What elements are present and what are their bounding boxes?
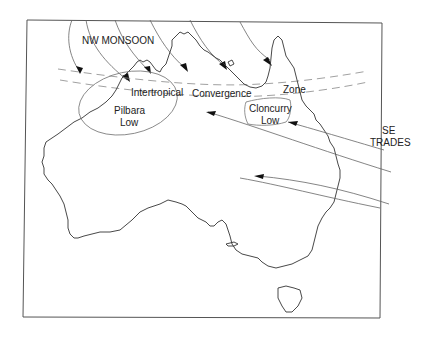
australia-coastline xyxy=(42,32,340,268)
se-trades-arrowheads xyxy=(206,111,298,179)
label-convergence: Convergence xyxy=(192,88,252,99)
label-se: SE xyxy=(382,125,396,136)
label-trades: TRADES xyxy=(370,137,411,148)
nw-monsoon-flow-lines xyxy=(69,20,270,80)
label-cloncurry: Cloncurry xyxy=(249,103,292,114)
tasmania xyxy=(278,286,302,312)
label-nw-monsoon: NW MONSOON xyxy=(82,35,154,46)
label-zone: Zone xyxy=(283,84,306,95)
se-trades-flow-lines xyxy=(208,112,391,208)
label-pilbara: Pilbara xyxy=(114,105,146,116)
label-cloncurry-low: Low xyxy=(261,115,280,126)
label-intertropical: Intertropical xyxy=(131,87,183,98)
label-pilbara-low: Low xyxy=(120,117,139,128)
australia-circulation-map: Pilbara Low Cloncurry Low NW MONSOON Int… xyxy=(0,0,424,337)
map-frame xyxy=(23,20,382,318)
small-island-north xyxy=(228,60,234,66)
